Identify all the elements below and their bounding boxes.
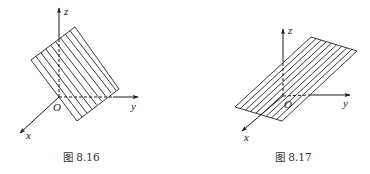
y-axis-label: y (342, 97, 348, 109)
x-axis-label: x (243, 131, 249, 143)
figure-8-17: z y x O 图 8.17 (235, 24, 357, 163)
x-axis-label: x (25, 129, 31, 141)
y-axis-label: y (130, 100, 136, 112)
figure-8-16: z y x O 图 8.16 (20, 5, 138, 163)
plane-hatching (36, 31, 116, 117)
figure-canvas: z y x O 图 8.16 z y x (0, 0, 370, 174)
z-axis-label: z (63, 5, 69, 17)
figure-caption: 图 8.17 (275, 151, 312, 163)
origin-label: O (284, 98, 292, 110)
figure-caption: 图 8.16 (63, 151, 100, 163)
plane-outline (31, 27, 119, 121)
origin-label: O (53, 101, 61, 113)
z-axis-label: z (287, 24, 293, 36)
